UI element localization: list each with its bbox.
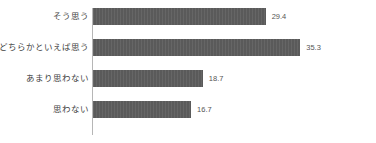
bar — [93, 70, 203, 87]
bar-value-label: 16.7 — [197, 106, 212, 114]
bar — [93, 39, 300, 56]
bar — [93, 8, 266, 25]
bar-value-label: 35.3 — [306, 44, 321, 52]
bar-value-label: 18.7 — [209, 75, 224, 83]
plot-area: 29.4 35.3 18.7 16.7 — [92, 8, 368, 135]
category-label: どちらかといえば思う — [0, 39, 89, 56]
bar — [93, 101, 191, 118]
bar-row: 29.4 — [93, 8, 368, 25]
bar-row: 35.3 — [93, 39, 368, 56]
category-label: あまり思わない — [0, 70, 89, 87]
bar-value-label: 29.4 — [272, 13, 287, 21]
bar-row: 18.7 — [93, 70, 368, 87]
bar-row: 16.7 — [93, 101, 368, 118]
category-axis-labels: そう思う どちらかといえば思う あまり思わない 思わない — [0, 8, 89, 135]
category-label: そう思う — [0, 8, 89, 25]
bar-chart: そう思う どちらかといえば思う あまり思わない 思わない 29.4 35.3 1… — [0, 0, 376, 143]
category-label: 思わない — [0, 101, 89, 118]
